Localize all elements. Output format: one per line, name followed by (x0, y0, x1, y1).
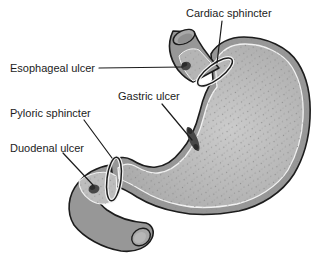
leader-line-pyloric-sphincter (84, 120, 112, 158)
label-duodenal-ulcer: Duodenal ulcer (10, 142, 84, 154)
leader-line-esophageal-ulcer (99, 67, 183, 68)
label-pyloric-sphincter: Pyloric sphincter (10, 107, 91, 119)
label-gastric-ulcer: Gastric ulcer (118, 90, 180, 102)
diagram-svg: Cardiac sphincter Esophageal ulcer Gastr… (0, 0, 313, 256)
stomach-ulcer-diagram: Cardiac sphincter Esophageal ulcer Gastr… (0, 0, 313, 256)
label-cardiac-sphincter: Cardiac sphincter (186, 7, 272, 19)
label-esophageal-ulcer: Esophageal ulcer (10, 62, 95, 74)
leader-line-duodenal-ulcer (63, 153, 93, 185)
leader-line-gastric-ulcer (162, 104, 192, 140)
